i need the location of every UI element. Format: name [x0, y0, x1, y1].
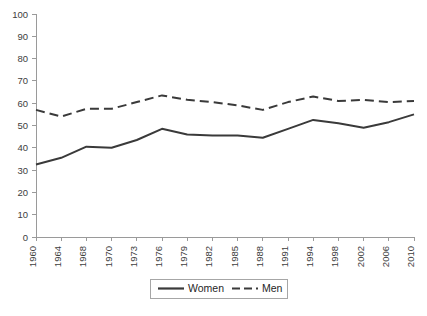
line-chart: 0102030405060708090100 19601964196819701… [0, 0, 427, 316]
x-tick-marks [36, 237, 414, 241]
x-tick-label: 1988 [254, 246, 265, 267]
x-tick-label: 1968 [77, 246, 88, 267]
x-tick-label: 2010 [405, 246, 416, 267]
chart-legend: WomenMen [150, 279, 287, 298]
y-tick-label: 10 [17, 209, 28, 220]
x-tick-label: 1964 [52, 246, 63, 267]
x-tick-label: 1985 [229, 246, 240, 267]
legend-label-women: Women [188, 282, 224, 294]
y-tick-label: 20 [17, 187, 28, 198]
x-tick-label: 1994 [304, 246, 315, 267]
y-tick-label: 70 [17, 75, 28, 86]
y-tick-label: 50 [17, 120, 28, 131]
y-tick-label: 0 [23, 232, 28, 243]
y-tick-label: 90 [17, 31, 28, 42]
x-axis-group: 1960196419681970197319761979198219851988… [27, 237, 416, 267]
x-tick-label: 1991 [279, 246, 290, 267]
series-line-men [36, 95, 414, 116]
y-tick-label: 100 [12, 9, 28, 20]
x-tick-label: 1979 [178, 246, 189, 267]
x-tick-labels: 1960196419681970197319761979198219851988… [27, 246, 416, 267]
y-axis-group: 0102030405060708090100 [12, 9, 36, 243]
chart-canvas: 0102030405060708090100 19601964196819701… [0, 0, 427, 316]
x-tick-label: 1973 [128, 246, 139, 267]
legend-label-men: Men [262, 282, 283, 294]
y-tick-label: 80 [17, 53, 28, 64]
x-tick-label: 2006 [380, 246, 391, 267]
series-line-women [36, 114, 414, 164]
x-tick-label: 2002 [355, 246, 366, 267]
y-tick-label: 60 [17, 98, 28, 109]
y-tick-label: 40 [17, 142, 28, 153]
x-tick-label: 1982 [203, 246, 214, 267]
data-series-group [36, 95, 414, 164]
x-tick-label: 1960 [27, 246, 38, 267]
y-tick-labels: 0102030405060708090100 [12, 9, 28, 243]
x-tick-label: 1998 [329, 246, 340, 267]
y-tick-marks [32, 14, 36, 237]
y-tick-label: 30 [17, 165, 28, 176]
x-tick-label: 1976 [153, 246, 164, 267]
x-tick-label: 1970 [103, 246, 114, 267]
